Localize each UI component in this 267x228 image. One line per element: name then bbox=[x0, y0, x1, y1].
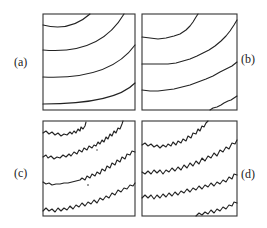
panel-d: (d) bbox=[142, 121, 255, 216]
panel-a-frame bbox=[43, 14, 135, 110]
panel-b-label: (b) bbox=[241, 52, 255, 66]
panel-d-frame bbox=[142, 121, 237, 216]
panel-d-label: (d) bbox=[241, 167, 255, 181]
panel-a-label: (a) bbox=[14, 55, 27, 69]
panel-c: (c) bbox=[14, 121, 135, 216]
panel-c-dot bbox=[96, 149, 97, 150]
panel-c-frame bbox=[43, 121, 135, 216]
panel-c-dot bbox=[87, 184, 89, 186]
panel-c-label: (c) bbox=[14, 166, 27, 180]
contour-figure: (a) (b) (c) (d) bbox=[0, 0, 267, 228]
panel-c-dot bbox=[69, 206, 70, 207]
panel-b: (b) bbox=[142, 14, 255, 110]
panel-b-frame bbox=[142, 14, 237, 110]
panel-a: (a) bbox=[14, 14, 135, 110]
